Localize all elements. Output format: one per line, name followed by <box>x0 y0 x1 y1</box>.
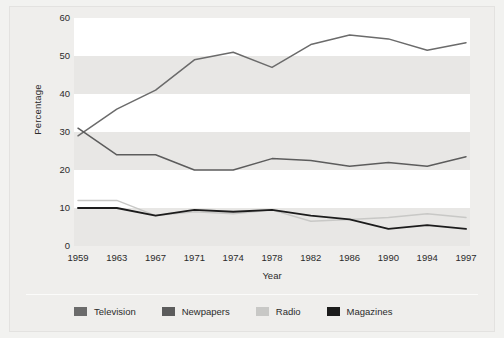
legend-swatch-icon-magazines <box>327 307 340 316</box>
y-tick-40: 40 <box>40 89 70 99</box>
series-svg <box>74 18 470 246</box>
series-lines-container <box>74 18 470 246</box>
legend-label: Magazines <box>347 306 393 317</box>
y-tick-0: 0 <box>40 241 70 251</box>
series-line-television <box>78 35 466 136</box>
legend-label: Newpapers <box>182 306 230 317</box>
x-axis-title: Year <box>74 270 470 281</box>
chart-screenshot: Percentage 0102030405060 195919631967197… <box>0 0 504 338</box>
x-tick-1986: 1986 <box>339 252 360 263</box>
legend-item-television[interactable]: Television <box>74 306 136 317</box>
y-tick-60: 60 <box>40 13 70 23</box>
y-tick-10: 10 <box>40 203 70 213</box>
legend-item-radio[interactable]: Radio <box>256 306 301 317</box>
x-tick-1978: 1978 <box>261 252 282 263</box>
y-tick-20: 20 <box>40 165 70 175</box>
y-tick-50: 50 <box>40 51 70 61</box>
y-axis-tick-labels: 0102030405060 <box>40 18 70 246</box>
x-tick-1967: 1967 <box>145 252 166 263</box>
x-tick-1997: 1997 <box>455 252 476 263</box>
legend-item-newpapers[interactable]: Newpapers <box>162 306 230 317</box>
x-axis-tick-labels: 1959196319671971197419781982198619901994… <box>74 252 470 266</box>
series-line-magazines <box>78 208 466 229</box>
x-tick-1982: 1982 <box>300 252 321 263</box>
plot-area <box>74 18 470 246</box>
legend-label: Radio <box>276 306 301 317</box>
legend-swatch-icon-radio <box>256 307 269 316</box>
legend-swatch-icon-newpapers <box>162 307 175 316</box>
series-line-newpapers <box>78 128 466 170</box>
x-tick-1963: 1963 <box>106 252 127 263</box>
chart-legend: TelevisionNewpapersRadioMagazines <box>74 303 474 319</box>
x-tick-1959: 1959 <box>67 252 88 263</box>
legend-swatch-icon-television <box>74 307 87 316</box>
legend-item-magazines[interactable]: Magazines <box>327 306 393 317</box>
x-tick-1994: 1994 <box>417 252 438 263</box>
y-tick-30: 30 <box>40 127 70 137</box>
x-tick-1971: 1971 <box>184 252 205 263</box>
x-tick-1974: 1974 <box>223 252 244 263</box>
legend-label: Television <box>94 306 136 317</box>
legend-divider <box>26 294 478 295</box>
x-tick-1990: 1990 <box>378 252 399 263</box>
